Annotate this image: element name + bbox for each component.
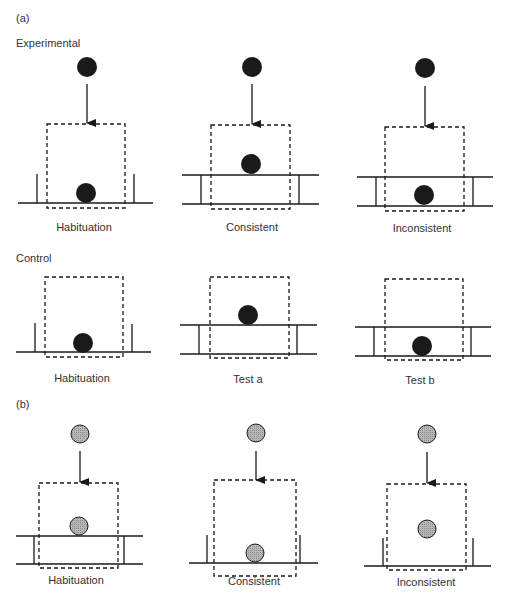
ball-icon bbox=[71, 425, 89, 443]
ball-icon bbox=[412, 336, 432, 356]
ball-icon bbox=[70, 517, 88, 535]
ball-icon bbox=[414, 185, 434, 205]
ball-icon bbox=[415, 58, 435, 78]
b-inconsistent-scene bbox=[364, 425, 491, 570]
ball-icon bbox=[241, 154, 261, 174]
ball-icon bbox=[77, 57, 97, 77]
ball-icon bbox=[418, 425, 436, 443]
exp-consistent-scene bbox=[182, 57, 319, 209]
diagram-canvas bbox=[0, 0, 506, 602]
ball-icon bbox=[76, 183, 96, 203]
ball-icon bbox=[238, 305, 258, 325]
ball-icon bbox=[247, 424, 265, 442]
ball-icon bbox=[242, 57, 262, 77]
exp-inconsistent-scene bbox=[357, 58, 493, 211]
ctrl-test-b-scene bbox=[355, 279, 491, 360]
b-consistent-scene bbox=[189, 424, 318, 576]
ctrl-test-a-scene bbox=[180, 277, 317, 358]
exp-habituation-scene bbox=[18, 57, 153, 208]
ball-icon bbox=[418, 520, 436, 538]
ball-icon bbox=[246, 544, 264, 562]
ball-icon bbox=[73, 333, 93, 353]
ctrl-habituation-scene bbox=[16, 277, 151, 357]
b-habituation-scene bbox=[16, 425, 143, 568]
